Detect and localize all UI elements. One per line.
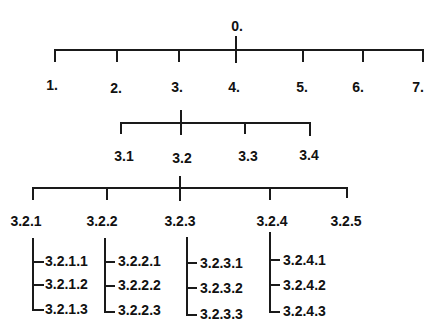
node-2: 2. [110, 80, 122, 96]
connector [104, 285, 115, 287]
connector [54, 49, 424, 51]
connector [116, 49, 118, 62]
node-3-2-2-1: 3.2.2.1 [118, 253, 161, 269]
node-7: 7. [412, 79, 424, 95]
node-3-2-1-3: 3.2.1.3 [45, 301, 88, 317]
node-4: 4. [228, 79, 240, 95]
node-3-2-5: 3.2.5 [330, 213, 361, 229]
connector [186, 262, 197, 264]
connector [422, 49, 424, 62]
node-3-2-4-3: 3.2.4.3 [283, 303, 326, 319]
connector [104, 261, 115, 263]
node-3-4: 3.4 [299, 147, 318, 163]
connector [120, 122, 122, 134]
node-3-2-1-2: 3.2.1.2 [45, 276, 88, 292]
node-5: 5. [296, 79, 308, 95]
connector [32, 309, 44, 311]
connector [302, 49, 304, 62]
node-3-2-1-1: 3.2.1.1 [45, 253, 88, 269]
connector [269, 232, 271, 313]
node-3-2-2-3: 3.2.2.3 [118, 302, 161, 318]
node-3-2-3-1: 3.2.3.1 [200, 255, 243, 271]
connector [104, 238, 106, 313]
node-3-3: 3.3 [238, 148, 257, 164]
connector [362, 49, 364, 62]
connector [186, 237, 188, 316]
node-3-1: 3.1 [114, 148, 133, 164]
connector [178, 49, 180, 62]
node-3-2-4-2: 3.2.4.2 [283, 277, 326, 293]
connector [346, 187, 348, 198]
connector [32, 187, 34, 200]
node-3-2-3: 3.2.3 [164, 213, 195, 229]
connector [54, 49, 56, 62]
connector [269, 284, 280, 286]
connector [244, 122, 246, 134]
node-3-2-4: 3.2.4 [256, 213, 287, 229]
node-6: 6. [352, 79, 364, 95]
connector [106, 187, 108, 200]
connector [32, 284, 44, 286]
connector [120, 122, 311, 124]
connector [32, 187, 348, 189]
connector [269, 259, 280, 261]
node-3-2-1: 3.2.1 [10, 213, 41, 229]
node-3-2-4-1: 3.2.4.1 [283, 252, 326, 268]
connector [186, 287, 197, 289]
connector [32, 238, 34, 311]
connector [186, 314, 197, 316]
connector [309, 122, 311, 136]
node-3-2-3-3: 3.2.3.3 [200, 306, 243, 322]
connector [104, 311, 115, 313]
node-3-2-2: 3.2.2 [86, 213, 117, 229]
node-0: 0. [231, 18, 243, 34]
node-1: 1. [46, 77, 58, 93]
connector [269, 311, 280, 313]
node-3-2: 3.2 [172, 150, 191, 166]
connector [32, 261, 44, 263]
node-3-2-3-2: 3.2.3.2 [200, 280, 243, 296]
node-3-2-2-2: 3.2.2.2 [118, 277, 161, 293]
node-3: 3. [171, 79, 183, 95]
connector [269, 187, 271, 200]
